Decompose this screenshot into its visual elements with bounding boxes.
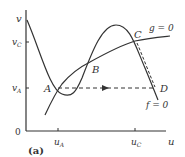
g-nullcline-label: g = 0 bbox=[149, 23, 174, 33]
point-label-A: A bbox=[43, 83, 51, 94]
point-label-D: D bbox=[159, 83, 168, 94]
x-axis-label: u bbox=[168, 136, 174, 147]
trajectory-C-to-D bbox=[137, 43, 155, 87]
origin-label: 0 bbox=[15, 127, 21, 137]
tick-label-uC: uC bbox=[131, 137, 142, 148]
tick-label-uA: uA bbox=[54, 137, 65, 148]
y-axis-label: v bbox=[16, 13, 22, 24]
arrow-right-icon bbox=[102, 85, 109, 91]
point-label-B: B bbox=[91, 64, 99, 75]
point-label-C: C bbox=[134, 29, 142, 40]
phase-plane-diagram: v vC vA 0 uA uC u A B C D g = 0 f = 0 (a… bbox=[0, 0, 185, 157]
f-nullcline-label: f = 0 bbox=[145, 100, 169, 110]
panel-label: (a) bbox=[28, 145, 44, 156]
tick-label-vC: vC bbox=[12, 37, 22, 48]
tick-label-vA: vA bbox=[12, 83, 22, 94]
